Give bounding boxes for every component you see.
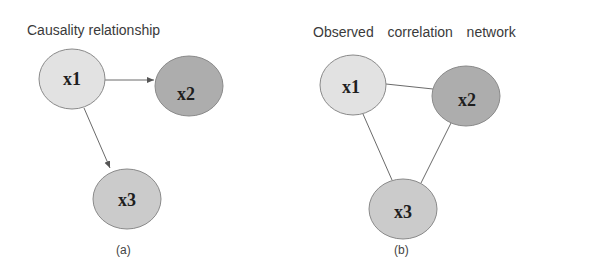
node-x3: x3 <box>93 169 161 229</box>
node-label: x3 <box>394 202 412 222</box>
node-x3: x3 <box>369 179 437 239</box>
node-label: x1 <box>342 77 360 97</box>
panel-causality: x1 x2 x3 Causality relationship (a) <box>0 0 295 274</box>
edge-x1-x2 <box>386 84 433 89</box>
node-x2: x2 <box>155 56 223 116</box>
node-label: x1 <box>63 69 81 89</box>
edge-x1-x3 <box>84 108 110 168</box>
panel-correlation: x1 x2 x3 Observed correlation network (b… <box>295 0 595 274</box>
panel-caption: (b) <box>394 243 409 257</box>
node-label: x2 <box>458 90 476 110</box>
node-x1: x1 <box>39 49 105 109</box>
node-label: x3 <box>118 190 136 210</box>
correlation-graph: x1 x2 x3 <box>295 0 595 274</box>
panel-caption: (a) <box>116 243 131 257</box>
node-x2: x2 <box>432 66 500 126</box>
panel-title: Causality relationship <box>27 22 160 38</box>
edge-x1-x3 <box>363 114 392 180</box>
causality-graph: x1 x2 x3 <box>0 0 295 274</box>
edge-x2-x3 <box>421 123 451 183</box>
node-label: x2 <box>177 84 195 104</box>
panel-title: Observed correlation network <box>313 24 516 40</box>
node-x1: x1 <box>320 55 386 115</box>
